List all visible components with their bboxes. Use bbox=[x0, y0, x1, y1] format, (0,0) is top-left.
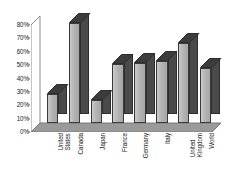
y-tick-mark bbox=[28, 78, 30, 79]
x-axis-label-line: Canada bbox=[77, 133, 84, 154]
y-tick-mark bbox=[28, 132, 30, 133]
x-axis-label: France bbox=[121, 133, 128, 152]
y-axis: 80%70%60%50%40%30%20%10%0% bbox=[0, 16, 30, 132]
x-axis-label: UnitedKingdom bbox=[189, 133, 203, 157]
x-axis-label-line: States bbox=[65, 133, 72, 151]
bar-front-face bbox=[69, 23, 80, 123]
x-axis-label-line: France bbox=[121, 133, 128, 152]
y-tick-mark bbox=[28, 91, 30, 92]
bar-front-face bbox=[178, 43, 189, 123]
bar-top-face bbox=[178, 33, 200, 44]
bar-chart: 80%70%60%50%40%30%20%10%0% UnitedStatesC… bbox=[0, 0, 228, 173]
x-axis-label: Italy bbox=[164, 133, 171, 144]
bar-front-face bbox=[200, 68, 211, 123]
bar bbox=[91, 100, 102, 123]
bar-top-face bbox=[134, 53, 156, 64]
bar-front-face bbox=[47, 94, 58, 123]
x-axis-label-line: Germany bbox=[142, 133, 149, 158]
x-axis-label-line: Japan bbox=[99, 133, 106, 150]
y-tick-mark bbox=[28, 65, 30, 66]
bar bbox=[178, 43, 189, 123]
x-axis-label: Germany bbox=[142, 133, 149, 158]
x-axis-label-line: World bbox=[208, 133, 215, 149]
x-axis-label-line: Italy bbox=[164, 133, 171, 144]
y-tick-mark bbox=[28, 105, 30, 106]
x-axis-label-line: United bbox=[189, 133, 196, 157]
x-axis-labels: UnitedStatesCanadaJapanFranceGermanyItal… bbox=[31, 131, 221, 173]
bar bbox=[156, 61, 167, 123]
y-tick-mark bbox=[28, 25, 30, 26]
bar-front-face bbox=[156, 61, 167, 123]
bar bbox=[47, 94, 58, 123]
bar-top-face bbox=[91, 90, 113, 101]
bars-layer bbox=[31, 16, 221, 132]
bar bbox=[112, 64, 123, 123]
bar-side-face bbox=[189, 34, 198, 114]
x-axis-label: Canada bbox=[77, 133, 84, 154]
bar-top-face bbox=[156, 51, 178, 62]
y-tick-mark bbox=[28, 38, 30, 39]
y-tick-mark bbox=[28, 118, 30, 119]
x-axis-label: World bbox=[208, 133, 215, 149]
x-axis-label-line: Kingdom bbox=[196, 133, 203, 157]
bar-top-face bbox=[47, 84, 69, 95]
bar bbox=[69, 23, 80, 123]
bar-front-face bbox=[91, 100, 102, 123]
plot-area bbox=[31, 16, 221, 132]
bar-top-face bbox=[69, 13, 91, 24]
bar bbox=[200, 68, 211, 123]
bar-top-face bbox=[112, 54, 134, 65]
bar-side-face bbox=[80, 14, 89, 114]
bar bbox=[134, 63, 145, 123]
bar-top-face bbox=[200, 58, 222, 69]
x-axis-label: UnitedStates bbox=[57, 133, 71, 151]
y-tick-mark bbox=[28, 51, 30, 52]
x-axis-label: Japan bbox=[99, 133, 106, 150]
bar-front-face bbox=[134, 63, 145, 123]
bar-front-face bbox=[112, 64, 123, 123]
